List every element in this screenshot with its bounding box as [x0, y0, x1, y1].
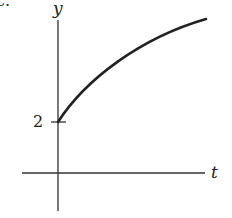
t-axis-label: t [211, 164, 218, 181]
y-tick-label-2: 2 [33, 114, 43, 130]
part-label: c. [0, 0, 10, 9]
solution-curve-figure: c. y t 2 [0, 0, 232, 218]
graph-canvas [0, 0, 232, 218]
y-axis-label: y [53, 0, 63, 17]
solution-curve [58, 19, 206, 122]
